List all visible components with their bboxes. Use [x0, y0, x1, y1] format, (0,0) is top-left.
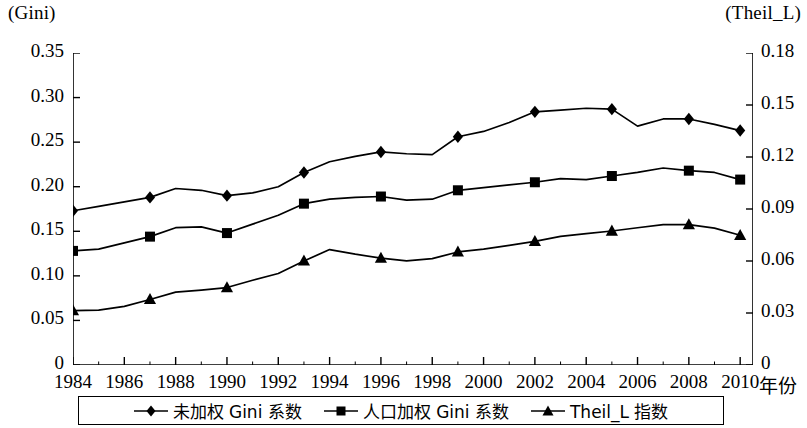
series-3-triangle — [73, 218, 746, 315]
data-point-marker — [222, 228, 232, 238]
data-point-marker — [145, 232, 155, 242]
chart-legend: 未加权 Gini 系数人口加权 Gini 系数Theil_L 指数 — [78, 396, 724, 425]
x-tick-label: 1992 — [252, 371, 304, 393]
x-tick-label: 1998 — [406, 371, 458, 393]
legend-item-label: Theil_L 指数 — [570, 398, 668, 423]
data-point-marker — [222, 189, 232, 201]
data-point-marker — [376, 192, 386, 202]
left-tick-label: 0.05 — [31, 307, 64, 329]
right-tick-label: 0.12 — [761, 144, 794, 166]
right-tick-label: 0.09 — [761, 196, 794, 218]
x-tick-label: 1984 — [47, 371, 99, 393]
data-point-marker — [145, 191, 155, 203]
x-tick-label: 2006 — [612, 371, 664, 393]
triangle-marker-icon — [531, 404, 565, 418]
legend-item-1[interactable]: 未加权 Gini 系数 — [134, 398, 302, 423]
left-tick-label: 0.15 — [31, 218, 64, 240]
axis-frame — [73, 53, 753, 365]
legend-item-3[interactable]: Theil_L 指数 — [531, 398, 668, 423]
x-tick-label: 2008 — [663, 371, 715, 393]
data-point-marker — [683, 218, 695, 229]
data-point-marker — [530, 177, 540, 187]
plot-svg — [73, 53, 753, 365]
series-2-square — [73, 166, 745, 256]
right-tick-label: 0.18 — [761, 40, 794, 62]
series-line — [73, 168, 740, 251]
x-tick-label: 1990 — [201, 371, 253, 393]
x-tick-label: 1986 — [98, 371, 150, 393]
series-line — [73, 108, 740, 211]
x-tick-label: 2000 — [458, 371, 510, 393]
data-point-marker — [735, 124, 745, 136]
data-point-marker — [376, 146, 386, 158]
left-tick-label: 0.25 — [31, 129, 64, 151]
data-point-marker — [607, 103, 617, 115]
left-tick-label: 0.35 — [31, 40, 64, 62]
left-tick-label: 0.30 — [31, 85, 64, 107]
data-point-marker — [607, 171, 617, 181]
chart-figure: (Gini) (Theil_L) 00.050.100.150.200.250.… — [0, 0, 807, 428]
data-point-marker — [73, 246, 78, 256]
x-tick-label: 2002 — [509, 371, 561, 393]
x-axis-title: 年份 — [759, 371, 797, 398]
x-tick-label: 1996 — [355, 371, 407, 393]
left-axis-unit-label: (Gini) — [8, 2, 56, 24]
tick-marks — [73, 53, 753, 365]
left-tick-label: 0.20 — [31, 174, 64, 196]
left-tick-label: 0.10 — [31, 263, 64, 285]
plot-area — [73, 53, 753, 365]
x-tick-label: 2004 — [560, 371, 612, 393]
right-axis-unit-label: (Theil_L) — [725, 2, 801, 24]
right-tick-label: 0.15 — [761, 92, 794, 114]
legend-item-2[interactable]: 人口加权 Gini 系数 — [324, 398, 509, 423]
x-tick-label: 1994 — [304, 371, 356, 393]
data-point-marker — [453, 185, 463, 195]
data-point-marker — [530, 106, 540, 118]
data-point-marker — [298, 255, 310, 266]
square-marker-icon — [324, 404, 358, 418]
right-tick-label: 0.06 — [761, 248, 794, 270]
data-point-marker — [684, 113, 694, 125]
right-tick-label: 0.03 — [761, 300, 794, 322]
data-point-marker — [73, 205, 78, 217]
series-line — [73, 225, 740, 311]
x-tick-label: 1988 — [150, 371, 202, 393]
data-point-marker — [299, 199, 309, 209]
data-point-marker — [299, 166, 309, 178]
data-point-marker — [453, 131, 463, 143]
data-point-marker — [684, 166, 694, 176]
legend-item-label: 未加权 Gini 系数 — [173, 398, 302, 423]
data-point-marker — [735, 175, 745, 185]
diamond-marker-icon — [134, 404, 168, 418]
legend-item-label: 人口加权 Gini 系数 — [363, 398, 509, 423]
